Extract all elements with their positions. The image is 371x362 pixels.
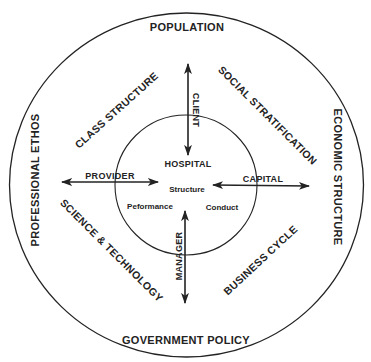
capital-arrow (213, 185, 309, 186)
science-technology-label: SCIENCE & TECHNOLOGY (58, 196, 166, 304)
government-policy-label: GOVERNMENT POLICY (122, 334, 250, 346)
conduct-label: Conduct (206, 203, 239, 212)
client-label: CLIENT (191, 93, 201, 127)
capital-label: CAPITAL (243, 174, 284, 184)
economic-structure-label: ECONOMIC STRUCTURE (332, 109, 344, 246)
social-stratification-label: SOCIAL STRATIFICATION (216, 63, 320, 167)
provider-label: PROVIDER (85, 171, 135, 181)
hospital-environment-diagram: POPULATION GOVERNMENT POLICY PROFESSIONA… (0, 0, 371, 362)
hospital-label: HOSPITAL (164, 159, 211, 169)
manager-label: MANAGER (174, 232, 184, 281)
population-label: POPULATION (150, 21, 224, 33)
professional-ethos-label: PROFESSIONAL ETHOS (29, 114, 41, 247)
business-cycle-label: BUSINESS CYCLE (221, 223, 300, 298)
class-structure-label: CLASS STRUCTURE (72, 70, 160, 151)
performance-label: Peformance (127, 202, 173, 211)
structure-label: Structure (169, 185, 205, 194)
